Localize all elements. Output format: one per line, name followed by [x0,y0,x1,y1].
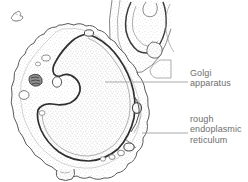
golgi-stack [29,74,42,86]
label-golgi-line-2: apparatus [190,78,231,88]
label-rer-line-3: reticulum [190,135,242,145]
label-golgi-line-1: Golgi [190,68,231,78]
cell-fragment-top-left [11,11,23,21]
cell-diagram-figure: Golgi apparatus rough endoplasmic reticu… [0,0,248,182]
basal-protrusion [56,169,74,181]
label-rer-line-1: rough [190,114,242,124]
label-rough-endoplasmic-reticulum: rough endoplasmic reticulum [190,114,242,145]
label-rer-line-2: endoplasmic [190,124,242,134]
cell-illustration [0,0,248,182]
label-golgi-apparatus: Golgi apparatus [190,68,231,89]
